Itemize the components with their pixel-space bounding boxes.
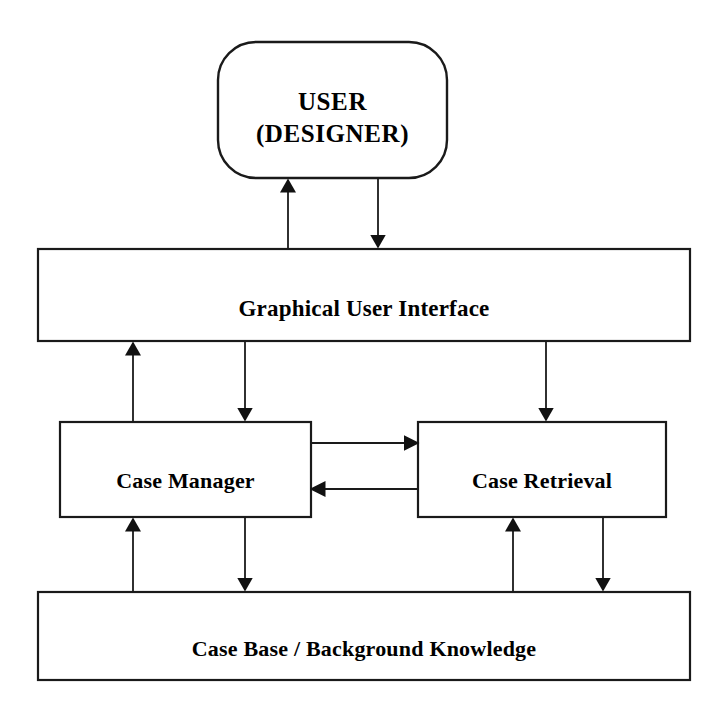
case-retrieval-node-hit-area[interactable] bbox=[418, 422, 666, 517]
case-base-node-hit-area[interactable] bbox=[38, 592, 690, 680]
case-manager-node-hit-area[interactable] bbox=[60, 422, 311, 517]
architecture-diagram: USER (DESIGNER) Graphical User Interface… bbox=[0, 0, 726, 727]
user-node-hit-area[interactable] bbox=[218, 42, 447, 178]
gui-node-hit-area[interactable] bbox=[38, 249, 690, 341]
